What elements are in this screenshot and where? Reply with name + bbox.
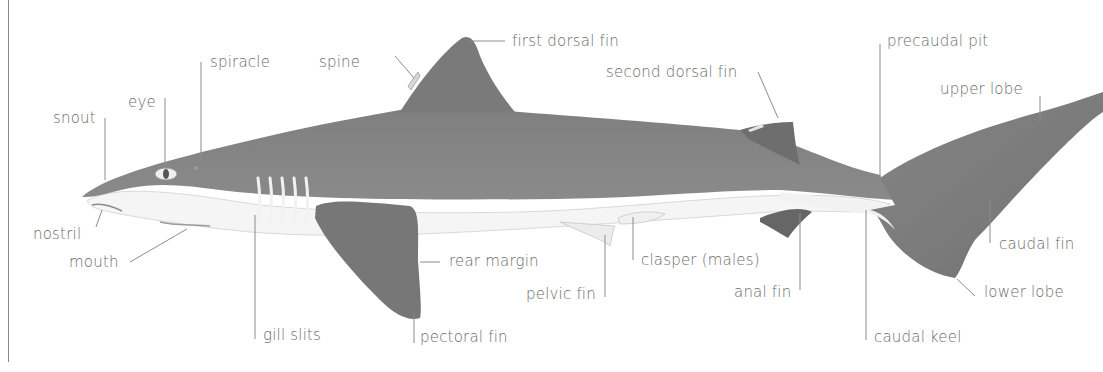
label-caudal-keel: caudal keel — [874, 330, 962, 345]
shark-illustration — [0, 0, 1103, 372]
anal-fin-shape — [760, 209, 812, 238]
pelvic-fin-shape — [560, 222, 615, 246]
label-second-dorsal-fin: second dorsal fin — [606, 65, 737, 80]
label-lower-lobe: lower lobe — [984, 285, 1064, 300]
label-upper-lobe: upper lobe — [940, 82, 1023, 97]
label-pelvic-fin: pelvic fin — [526, 287, 596, 302]
spiracle-shape — [194, 166, 198, 170]
label-nostril: nostril — [33, 227, 81, 242]
label-pectoral-fin: pectoral fin — [420, 330, 508, 345]
label-gill-slits: gill slits — [263, 328, 321, 343]
pectoral-fin-shape — [315, 202, 421, 320]
label-snout: snout — [53, 111, 96, 126]
label-mouth: mouth — [69, 255, 119, 270]
label-spine: spine — [319, 55, 360, 70]
label-first-dorsal-fin: first dorsal fin — [512, 34, 619, 49]
label-anal-fin: anal fin — [734, 285, 791, 300]
shark-body — [82, 107, 895, 200]
label-rear-margin: rear margin — [449, 254, 539, 269]
label-clasper: clasper (males) — [641, 253, 760, 268]
shark-anatomy-diagram: snout eye spiracle spine first dorsal fi… — [0, 0, 1103, 372]
label-eye: eye — [128, 95, 156, 110]
label-spiracle: spiracle — [210, 55, 270, 70]
label-precaudal-pit: precaudal pit — [887, 34, 988, 49]
label-caudal-fin: caudal fin — [999, 237, 1075, 252]
